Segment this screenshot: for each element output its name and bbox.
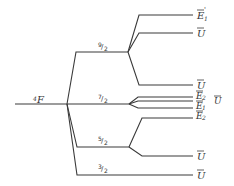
svg-text:2: 2 (104, 45, 108, 52)
level-5-2-label: 5 / 2 (98, 135, 108, 146)
svg-text:U: U (197, 28, 206, 39)
level-7-2-label: 7 / 2 (98, 93, 108, 104)
svg-text:U: U (197, 170, 206, 181)
svg-text:': ' (204, 6, 206, 14)
label-7-2-U: U (214, 96, 222, 106)
component-7-2-E1-line (129, 104, 193, 108)
level-3-2-line (67, 104, 193, 175)
svg-text:2: 2 (201, 114, 206, 121)
level-3-2-label: 3 / 2 (98, 163, 108, 174)
svg-text:1: 1 (202, 104, 206, 111)
label-7-2-E2: E 2 (195, 91, 206, 101)
component-5-2-E2-line (129, 118, 193, 147)
component-5-2-U-line (129, 147, 193, 156)
svg-text:2: 2 (104, 167, 108, 174)
label-9-2-U2: U (197, 80, 206, 91)
svg-text:2: 2 (201, 94, 206, 101)
label-9-2-E1p: E 1 ' (196, 6, 208, 22)
level-9-2-label: 9 / 2 (98, 41, 108, 52)
component-9-2-U-line (128, 33, 193, 52)
label-5-2-U: U (197, 151, 206, 162)
svg-text:1: 1 (204, 15, 208, 22)
label-9-2-U: U (197, 28, 206, 39)
label-7-2-E1: E 1 (195, 101, 206, 111)
component-9-2-U2-line (128, 52, 193, 85)
svg-text:U: U (197, 80, 206, 91)
svg-text:U: U (214, 96, 222, 106)
label-3-2-U: U (197, 170, 206, 181)
label-5-2-E2: E 2 (195, 111, 206, 121)
root-label: F (36, 94, 45, 105)
component-7-2-U-line (129, 101, 193, 104)
energy-level-diagram: 4 F 9 / 2 E 1 ' U U 7 / 2 E 2 U E (0, 0, 234, 186)
svg-text:2: 2 (104, 139, 108, 146)
svg-text:2: 2 (104, 97, 108, 104)
svg-text:U: U (197, 151, 206, 162)
